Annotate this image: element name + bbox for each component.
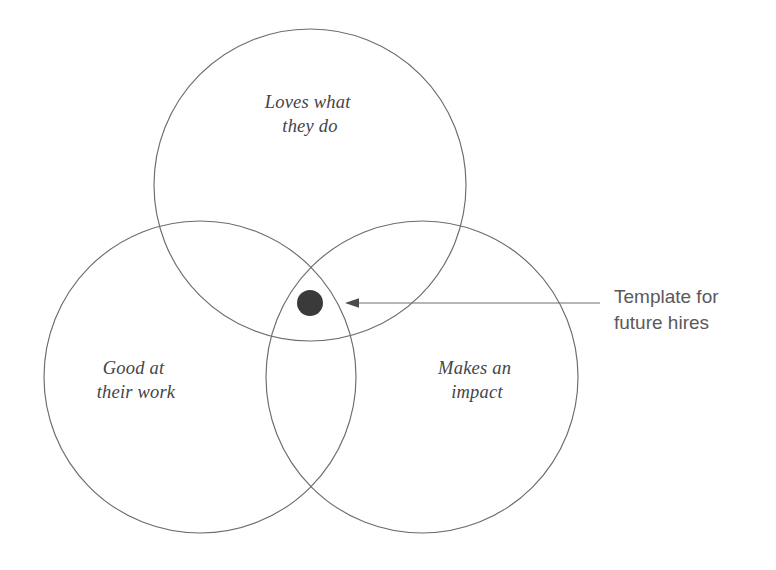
label-line-2: impact bbox=[451, 382, 503, 402]
diagram-canvas: Loves what they do Good at their work Ma… bbox=[0, 0, 776, 570]
label-line-1: Makes an bbox=[437, 358, 511, 378]
label-good-at-their-work: Good at their work bbox=[97, 358, 176, 402]
label-line-1: Loves what bbox=[264, 92, 351, 112]
callout-label-template-for-future-hires: Template for future hires bbox=[614, 286, 724, 333]
label-line-2: their work bbox=[97, 382, 176, 402]
center-dot[interactable] bbox=[297, 290, 323, 316]
venn-circle-makes-an-impact[interactable] bbox=[266, 221, 578, 533]
venn-diagram: Loves what they do Good at their work Ma… bbox=[0, 0, 776, 570]
venn-circle-good-at-their-work[interactable] bbox=[44, 221, 356, 533]
callout-line-2: future hires bbox=[614, 312, 709, 333]
label-loves-what-they-do: Loves what they do bbox=[264, 92, 356, 136]
label-makes-an-impact: Makes an impact bbox=[437, 358, 516, 402]
callout-line-1: Template for bbox=[614, 286, 719, 307]
label-line-2: they do bbox=[282, 116, 337, 136]
label-line-1: Good at bbox=[103, 358, 165, 378]
callout-arrow-head-icon bbox=[345, 298, 359, 308]
